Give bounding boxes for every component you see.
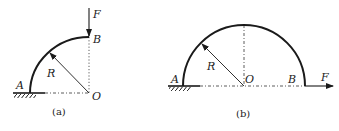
fixed-support-a — [13, 93, 45, 98]
label-R: R — [206, 60, 215, 73]
diagram-canvas: F B O R A (a) A O B F R (b) — [0, 0, 339, 131]
label-O: O — [245, 73, 254, 86]
label-R: R — [46, 67, 55, 80]
caption-b: (b) — [236, 108, 250, 119]
figure-b: A O B F R (b) — [168, 25, 333, 119]
label-B: B — [287, 73, 296, 86]
figure-a: F B O R A (a) — [13, 8, 101, 117]
label-F: F — [92, 8, 101, 21]
label-B: B — [92, 33, 101, 46]
curved-beam-quarter — [30, 37, 89, 93]
label-F: F — [320, 71, 329, 84]
label-A: A — [15, 79, 24, 92]
caption-a: (a) — [52, 106, 66, 117]
label-O: O — [92, 90, 101, 103]
fixed-support-b — [168, 86, 200, 91]
radius-line — [50, 53, 89, 93]
label-A: A — [170, 73, 179, 86]
